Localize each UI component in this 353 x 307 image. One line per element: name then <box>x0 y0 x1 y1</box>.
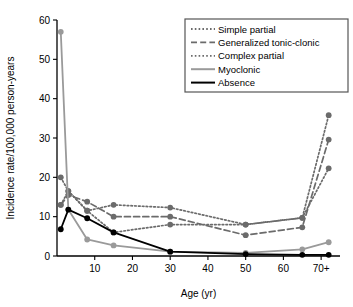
series-marker-3 <box>326 239 332 245</box>
chart-figure: 010203040506010203040506070+Age (yr)Inci… <box>0 0 353 307</box>
series-marker-0 <box>58 174 64 180</box>
series-line-1 <box>61 140 329 236</box>
series-marker-4 <box>65 207 71 213</box>
series-marker-3 <box>84 237 90 243</box>
series-marker-1 <box>326 137 332 143</box>
series-marker-1 <box>111 214 117 220</box>
series-marker-4 <box>243 251 249 257</box>
legend-label-3: Myoclonic <box>218 64 260 75</box>
series-marker-4 <box>84 215 90 221</box>
y-axis-title: Incidence rate/100,000 person-years <box>5 57 16 220</box>
series-marker-3 <box>111 242 117 248</box>
y-axis-tick-label: 30 <box>39 133 51 144</box>
series-marker-2 <box>167 222 173 228</box>
series-marker-2 <box>299 215 305 221</box>
y-axis-tick-label: 0 <box>44 251 50 262</box>
legend-label-2: Complex partial <box>218 50 284 61</box>
series-marker-0 <box>167 205 173 211</box>
legend-label-0: Simple partial <box>218 24 276 35</box>
series-marker-1 <box>84 199 90 205</box>
series-marker-4 <box>326 252 332 258</box>
series-marker-0 <box>111 202 117 208</box>
x-axis-tick-label: 10 <box>89 263 101 274</box>
y-axis-tick-label: 40 <box>39 93 51 104</box>
legend-label-1: Generalized tonic-clonic <box>218 37 320 48</box>
y-axis-tick-label: 50 <box>39 54 51 65</box>
x-axis-tick-label: 30 <box>165 263 177 274</box>
series-line-4 <box>61 210 329 255</box>
legend-label-4: Absence <box>218 77 255 88</box>
series-marker-1 <box>167 214 173 220</box>
series-marker-4 <box>111 230 117 236</box>
series-marker-2 <box>326 165 332 171</box>
series-marker-3 <box>58 29 64 35</box>
series-marker-2 <box>243 222 249 228</box>
x-axis-tick-label: 50 <box>240 263 252 274</box>
x-axis-title: Age (yr) <box>181 288 217 299</box>
series-marker-4 <box>58 226 64 232</box>
series-marker-2 <box>58 202 64 208</box>
x-axis-tick-label: 20 <box>127 263 139 274</box>
y-axis-tick-label: 60 <box>39 15 51 26</box>
x-axis-tick-label: 40 <box>202 263 214 274</box>
series-marker-3 <box>299 246 305 252</box>
x-axis-tick-label: 70+ <box>313 263 330 274</box>
y-axis-tick-label: 10 <box>39 211 51 222</box>
series-marker-4 <box>299 252 305 258</box>
series-marker-4 <box>167 249 173 255</box>
series-marker-0 <box>326 112 332 118</box>
series-marker-1 <box>299 224 305 230</box>
series-marker-1 <box>243 232 249 238</box>
x-axis-tick-label: 60 <box>278 263 290 274</box>
series-line-0 <box>61 115 329 224</box>
series-marker-2 <box>84 208 90 214</box>
incidence-rate-line-chart: 010203040506010203040506070+Age (yr)Inci… <box>0 0 353 307</box>
y-axis-tick-label: 20 <box>39 172 51 183</box>
